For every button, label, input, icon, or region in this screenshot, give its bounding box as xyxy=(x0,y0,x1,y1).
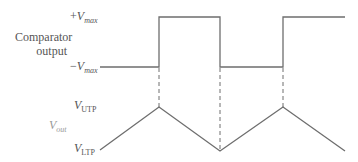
square-wave xyxy=(100,17,345,67)
dashed-guides xyxy=(159,68,283,151)
waveform-diagram xyxy=(0,0,358,162)
triangle-wave xyxy=(100,107,345,151)
